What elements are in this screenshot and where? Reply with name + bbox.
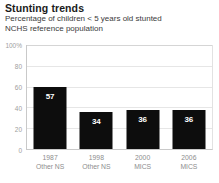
y-tick-label-60: 60	[15, 84, 22, 91]
x-label-group-1987: 1987 Other NS	[27, 153, 73, 172]
x-label-source-1998: Other NS	[73, 162, 119, 172]
bar-series: 57 34 36 36	[27, 45, 212, 149]
chart-header: Stunting trends Percentage of children <…	[5, 2, 215, 33]
x-label-group-2006: 2006 MICS	[166, 153, 212, 172]
bar-slot-2006: 36	[166, 45, 212, 149]
bar-2006[interactable]: 36	[172, 110, 205, 149]
y-axis-tick-labels: 100% 80 60 40 20 0	[0, 45, 24, 150]
x-label-year-2006: 2006	[166, 153, 212, 162]
plot-wrapper: 100% 80 60 40 20 0 57 34	[0, 41, 219, 183]
x-axis-tick-labels: 1987 Other NS 1998 Other NS 2000 MICS 20…	[27, 153, 212, 181]
y-tick-label-100: 100%	[5, 42, 22, 49]
bar-slot-1987: 57	[27, 45, 73, 149]
stunting-trends-chart: Stunting trends Percentage of children <…	[0, 0, 219, 183]
bar-value-2000: 36	[126, 115, 159, 124]
bar-2000[interactable]: 36	[126, 110, 159, 149]
bar-1998[interactable]: 34	[80, 112, 113, 149]
bar-1987[interactable]: 57	[34, 87, 67, 149]
x-label-year-1987: 1987	[27, 153, 73, 162]
bar-value-2006: 36	[172, 115, 205, 124]
bar-slot-1998: 34	[73, 45, 119, 149]
chart-subtitle-line-2: NCHS reference population	[5, 24, 215, 34]
x-label-source-2000: MICS	[120, 162, 166, 172]
chart-subtitle-line-1: Percentage of children < 5 years old stu…	[5, 14, 215, 24]
bar-slot-2000: 36	[120, 45, 166, 149]
x-label-source-2006: MICS	[166, 162, 212, 172]
x-label-group-1998: 1998 Other NS	[73, 153, 119, 172]
y-tick-label-80: 80	[15, 63, 22, 70]
y-tick-label-0: 0	[18, 147, 22, 154]
chart-title: Stunting trends	[5, 2, 215, 14]
x-label-source-1987: Other NS	[27, 162, 73, 172]
y-tick-label-40: 40	[15, 105, 22, 112]
x-label-year-1998: 1998	[73, 153, 119, 162]
x-label-year-2000: 2000	[120, 153, 166, 162]
bar-value-1998: 34	[80, 117, 113, 126]
y-tick-label-20: 20	[15, 126, 22, 133]
bar-value-1987: 57	[34, 92, 67, 101]
x-label-group-2000: 2000 MICS	[120, 153, 166, 172]
